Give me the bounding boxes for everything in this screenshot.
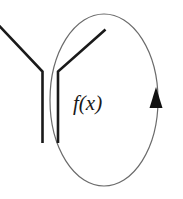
feedback-loop-ellipse xyxy=(50,14,158,186)
function-branch-loop-diagram: f(x) xyxy=(0,0,183,199)
left-branch-path xyxy=(0,25,43,144)
loop-direction-arrowhead xyxy=(150,87,163,108)
function-label: f(x) xyxy=(73,91,102,115)
right-branch-path xyxy=(58,30,106,144)
diagram-canvas: f(x) xyxy=(0,0,183,199)
